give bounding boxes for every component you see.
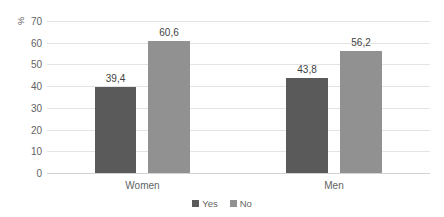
legend-swatch-no-icon: [230, 200, 237, 207]
bar-women-no[interactable]: [148, 41, 190, 173]
y-tick-60: 60: [2, 39, 42, 49]
y-tick-50: 50: [2, 60, 42, 70]
bar-men-yes[interactable]: [286, 78, 328, 173]
bar-label-men-yes: 43,8: [286, 65, 328, 75]
bar-chart: % 70 60 50 40 30 20 10 0 39,4 60,6 43,8 …: [0, 0, 444, 217]
bar-men-no[interactable]: [340, 51, 382, 173]
legend-item-yes[interactable]: Yes: [192, 199, 218, 209]
category-label-women: Women: [95, 180, 190, 191]
bar-women-yes[interactable]: [95, 87, 136, 173]
legend-label-no: No: [240, 199, 252, 209]
gridline-baseline-0: [47, 173, 430, 174]
gridline-70: [47, 21, 430, 22]
legend-item-no[interactable]: No: [230, 199, 252, 209]
y-tick-0: 0: [2, 169, 42, 179]
legend: Yes No: [0, 199, 444, 209]
y-tick-20: 20: [2, 126, 42, 136]
legend-swatch-yes-icon: [192, 200, 199, 207]
bar-label-women-no: 60,6: [148, 28, 190, 38]
bar-label-women-yes: 39,4: [95, 74, 136, 84]
y-tick-70: 70: [2, 17, 42, 27]
bar-label-men-no: 56,2: [340, 38, 382, 48]
category-label-men: Men: [286, 180, 382, 191]
y-tick-40: 40: [2, 82, 42, 92]
legend-label-yes: Yes: [202, 199, 218, 209]
y-axis-tick-labels: 70 60 50 40 30 20 10 0: [0, 21, 42, 173]
y-tick-10: 10: [2, 147, 42, 157]
plot-area: 39,4 60,6 43,8 56,2: [47, 21, 430, 173]
y-tick-30: 30: [2, 104, 42, 114]
